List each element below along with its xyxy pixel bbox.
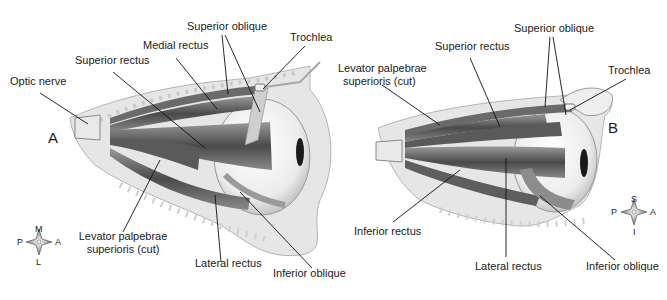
compass-b-right: A [650,207,656,217]
label-b-inferior-oblique: Inferior oblique [586,260,659,273]
label-a-levator-palpebrae: Levator palpebrae superioris (cut) [78,230,168,256]
compass-a-right: A [55,237,61,247]
label-b-levator-line2: superioris (cut) [338,75,427,88]
label-a-levator-line1: Levator palpebrae [78,230,168,243]
label-a-superior-oblique: Superior oblique [187,20,267,33]
panel-b-letter: B [608,120,618,136]
optic-nerve-b [376,140,402,162]
label-b-trochlea: Trochlea [608,64,650,77]
extraocular-muscles-figure: A Optic nerve Superior rectus Medial rec… [0,0,667,300]
pupil-a [296,138,304,166]
panel-b-illustration [376,88,612,226]
label-b-lateral-rectus: Lateral rectus [475,260,542,273]
trochlea-a [255,84,265,91]
compass-a-top: M [35,224,43,234]
label-a-levator-line2: superioris (cut) [78,243,168,256]
compass-b-bottom: I [633,227,636,237]
label-a-optic-nerve: Optic nerve [10,75,66,88]
panel-a-letter: A [48,130,58,146]
label-b-levator-line1: Levator palpebrae [338,62,427,75]
label-a-medial-rectus: Medial rectus [143,39,208,52]
label-a-superior-rectus: Superior rectus [75,54,150,67]
compass-b-top: S [631,194,637,204]
label-a-trochlea: Trochlea [290,31,332,44]
label-b-inferior-rectus: Inferior rectus [354,225,421,238]
label-b-superior-rectus: Superior rectus [435,40,510,53]
panel-a-illustration [70,62,331,256]
optic-nerve-a [75,115,100,140]
label-b-superior-oblique: Superior oblique [514,22,594,35]
compass-b-left: P [611,207,617,217]
label-a-inferior-oblique: Inferior oblique [273,267,346,280]
compass-a-left: P [17,237,23,247]
label-a-lateral-rectus: Lateral rectus [195,257,262,270]
trochlea-b [565,104,575,110]
compass-a-bottom: L [36,257,41,267]
label-b-levator-palpebrae: Levator palpebrae superioris (cut) [338,62,427,88]
pupil-b [580,149,588,177]
